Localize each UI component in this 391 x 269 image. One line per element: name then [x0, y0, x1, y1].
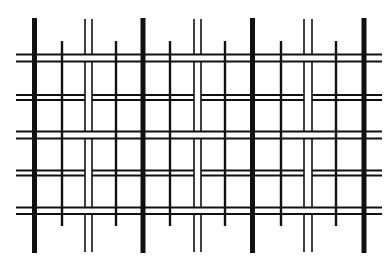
background — [0, 0, 391, 269]
grid-pattern-diagram — [0, 0, 391, 269]
